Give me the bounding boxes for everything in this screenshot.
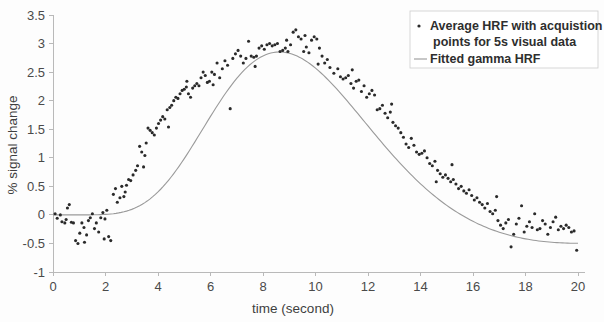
data-point <box>426 156 429 159</box>
data-point <box>155 127 158 130</box>
data-point <box>161 115 164 118</box>
data-point <box>381 104 384 107</box>
data-point <box>284 47 287 50</box>
data-point <box>103 237 106 240</box>
chart-legend: Average HRF with acquistion points for 5… <box>410 11 602 68</box>
data-point <box>122 195 125 198</box>
data-point <box>349 82 352 85</box>
data-point <box>494 209 497 212</box>
data-point <box>313 35 316 38</box>
data-point <box>97 230 100 233</box>
data-point <box>465 192 468 195</box>
data-point <box>223 59 226 62</box>
data-point <box>390 103 393 106</box>
data-point <box>231 57 234 60</box>
data-point <box>405 143 408 146</box>
data-point <box>344 76 347 79</box>
data-point <box>436 169 439 172</box>
data-point <box>297 35 300 38</box>
data-point <box>499 224 502 227</box>
data-point <box>495 195 498 198</box>
data-point <box>213 73 216 76</box>
data-point <box>125 184 128 187</box>
data-point <box>567 226 570 229</box>
data-point <box>107 235 110 238</box>
data-point <box>286 50 289 53</box>
data-point <box>226 64 229 67</box>
data-point <box>74 239 77 242</box>
data-point <box>112 193 115 196</box>
data-point <box>82 226 85 229</box>
data-point <box>515 222 518 225</box>
data-point <box>101 211 104 214</box>
data-point <box>520 204 523 207</box>
data-point <box>239 55 242 58</box>
data-point <box>410 137 413 140</box>
legend-label-scatter-line1: Average HRF with acquistion <box>430 19 602 33</box>
data-point <box>292 31 295 34</box>
x-tick-label: 10 <box>308 279 322 294</box>
data-point <box>407 146 410 149</box>
x-tick-label: 4 <box>154 279 161 294</box>
data-point <box>303 34 306 37</box>
data-point <box>315 37 318 40</box>
data-point <box>294 28 297 31</box>
data-point <box>120 185 123 188</box>
data-point <box>360 90 363 93</box>
data-point <box>538 227 541 230</box>
data-point <box>339 75 342 78</box>
data-point <box>216 61 219 64</box>
data-point <box>384 112 387 115</box>
x-tick-label: 14 <box>413 279 427 294</box>
data-point <box>83 241 86 244</box>
data-point <box>552 220 555 223</box>
data-point <box>462 189 465 192</box>
data-point <box>179 92 182 95</box>
data-point <box>68 203 71 206</box>
data-point <box>210 71 213 74</box>
data-point <box>318 47 321 50</box>
chart-canvas: -1-0.500.511.522.533.5 02468101214161820… <box>0 0 604 322</box>
data-point <box>321 55 324 58</box>
data-point <box>221 67 224 70</box>
data-point <box>541 219 544 222</box>
data-point <box>423 149 426 152</box>
fitted-gamma-curve <box>53 52 578 243</box>
data-point <box>143 154 146 157</box>
data-point <box>502 227 505 230</box>
x-axis-tick-labels: 02468101214161820 <box>49 279 585 294</box>
y-axis-tick-labels: -1-0.500.511.522.533.5 <box>23 8 45 280</box>
data-point <box>153 133 156 136</box>
data-point <box>95 221 98 224</box>
data-point <box>172 99 175 102</box>
y-tick-label: 2.5 <box>27 65 45 80</box>
data-point <box>276 42 279 45</box>
data-point <box>351 68 354 71</box>
data-point <box>310 39 313 42</box>
data-point <box>504 221 507 224</box>
data-point <box>363 84 366 87</box>
data-point <box>204 74 207 77</box>
data-point <box>549 226 552 229</box>
data-point <box>145 141 148 144</box>
data-point <box>302 50 305 53</box>
data-point <box>63 221 66 224</box>
x-tick-label: 2 <box>102 279 109 294</box>
data-point <box>486 202 489 205</box>
data-point <box>457 187 460 190</box>
x-tick-label: 8 <box>259 279 266 294</box>
data-point <box>454 183 457 186</box>
data-point <box>449 180 452 183</box>
data-point <box>357 79 360 82</box>
data-point <box>365 96 368 99</box>
data-point <box>170 104 173 107</box>
data-point <box>575 249 578 252</box>
data-point <box>195 82 198 85</box>
x-tick-label: 6 <box>207 279 214 294</box>
data-point <box>336 67 339 70</box>
data-point <box>285 39 288 42</box>
data-point <box>323 61 326 64</box>
data-point <box>185 85 188 88</box>
data-point <box>433 160 436 163</box>
data-point <box>254 65 257 68</box>
